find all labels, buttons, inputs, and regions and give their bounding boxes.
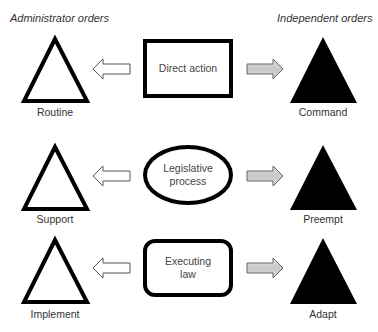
header-administrator-orders: Administrator orders: [10, 12, 109, 24]
label-command: Command: [278, 106, 368, 118]
label-preempt: Preempt: [278, 213, 368, 225]
label-support: Support: [10, 213, 100, 225]
label-implement: Implement: [10, 308, 100, 320]
center-label-direct-action: Direct action: [147, 43, 229, 94]
header-independent-orders: Independent orders: [277, 12, 372, 24]
outline-triangle-icon-implement: [24, 240, 87, 302]
center-label-executing-law: Executing law: [160, 243, 216, 293]
center-label-legislative-process: Legislative process: [160, 155, 216, 195]
hollow-left-arrow-icon: [93, 166, 130, 186]
gray-right-arrow-icon: [247, 166, 283, 186]
hollow-left-arrow-icon: [93, 258, 130, 278]
gray-right-arrow-icon: [247, 258, 283, 278]
filled-triangle-icon-preempt: [290, 145, 357, 210]
filled-triangle-icon-command: [290, 37, 357, 103]
outline-triangle-icon-routine: [24, 39, 87, 101]
filled-triangle-icon-adapt: [290, 238, 357, 304]
label-routine: Routine: [10, 106, 100, 118]
hollow-left-arrow-icon: [93, 59, 130, 79]
gray-right-arrow-icon: [247, 59, 283, 79]
outline-triangle-icon-support: [24, 147, 87, 209]
label-adapt: Adapt: [278, 308, 368, 320]
